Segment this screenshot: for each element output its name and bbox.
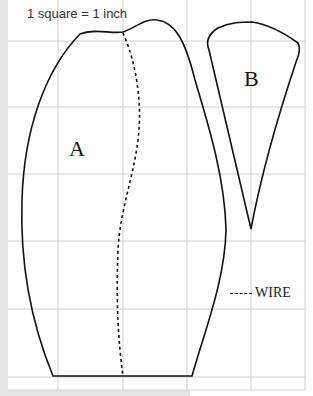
shape-a-outline [22,20,226,376]
shape-b-label: B [244,66,259,92]
shape-a-label: A [69,136,85,162]
legend-label: WIRE [255,285,291,301]
legend: WIRE [230,285,291,301]
shape-b-outline [208,22,300,229]
wire-line [117,33,139,376]
dashed-line-icon [230,293,252,294]
scale-label: 1 square = 1 inch [27,6,127,21]
grid [8,0,305,390]
pattern-diagram [0,0,313,396]
